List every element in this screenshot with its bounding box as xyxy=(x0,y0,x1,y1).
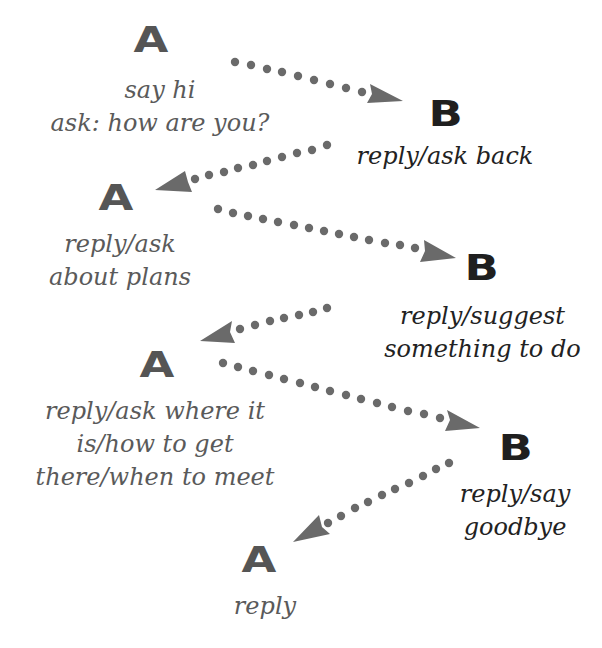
speaker-b-label: B xyxy=(465,250,499,286)
speaker-a-label: A xyxy=(140,347,175,383)
dotted-arrow-right-icon xyxy=(214,205,456,262)
speaker-a-label: A xyxy=(99,180,134,216)
node-text-line: there/when to meet xyxy=(20,461,290,494)
speaker-b-label: B xyxy=(499,430,533,466)
node-a3-text: reply/ask where it is/how to get there/w… xyxy=(20,395,290,494)
conversation-flow-diagram: A say hi ask: how are you? B reply/ask b… xyxy=(0,0,602,648)
node-text-line: reply/ask back xyxy=(335,140,555,173)
node-text-line: something to do xyxy=(370,333,595,366)
dotted-arrow-left-icon xyxy=(293,459,453,542)
node-text-line: reply/say xyxy=(440,478,590,511)
node-text-line: reply/ask xyxy=(30,228,210,261)
node-text-line: reply xyxy=(200,590,330,623)
node-text-line: ask: how are you? xyxy=(30,107,290,140)
speaker-b-label: B xyxy=(429,96,463,132)
node-b1-text: reply/ask back xyxy=(335,140,555,173)
dotted-arrow-left-icon xyxy=(155,141,331,192)
speaker-a-label: A xyxy=(134,22,169,58)
speaker-a-label: A xyxy=(242,542,277,578)
node-a2-text: reply/ask about plans xyxy=(30,228,210,294)
node-text-line: goodbye xyxy=(440,511,590,544)
node-text-line: reply/ask where it xyxy=(20,395,290,428)
node-text-line: say hi xyxy=(30,74,290,107)
node-a4-text: reply xyxy=(200,590,330,623)
node-a1-text: say hi ask: how are you? xyxy=(30,74,290,140)
dotted-arrow-left-icon xyxy=(200,304,331,343)
node-b2-text: reply/suggest something to do xyxy=(370,300,595,366)
node-text-line: reply/suggest xyxy=(370,300,595,333)
node-b3-text: reply/say goodbye xyxy=(440,478,590,544)
node-text-line: about plans xyxy=(30,261,210,294)
node-text-line: is/how to get xyxy=(20,428,290,461)
